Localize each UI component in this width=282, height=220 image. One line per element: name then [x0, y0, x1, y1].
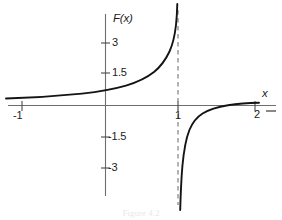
- figure-container: F(x) x 3 1.5 -1.5 -3 -1 1 2 Figure 4.2: [0, 0, 282, 220]
- curve-right-branch: [180, 103, 259, 210]
- x-tick-label-neg-1: -1: [13, 110, 22, 121]
- y-tick-label-3: 3: [112, 37, 118, 48]
- plot-area: [0, 0, 282, 220]
- x-axis-label: x: [262, 88, 268, 100]
- x-tick-label-2: 2: [254, 109, 260, 120]
- y-tick-label-1-5: 1.5: [112, 67, 127, 78]
- curve-left-branch: [6, 4, 177, 99]
- y-axis-label: F(x): [113, 13, 133, 25]
- x-tick-label-1: 1: [175, 110, 181, 121]
- figure-caption: Figure 4.2: [0, 208, 282, 220]
- y-tick-label-neg-1-5: -1.5: [108, 131, 126, 142]
- y-tick-label-neg-3: -3: [108, 162, 117, 173]
